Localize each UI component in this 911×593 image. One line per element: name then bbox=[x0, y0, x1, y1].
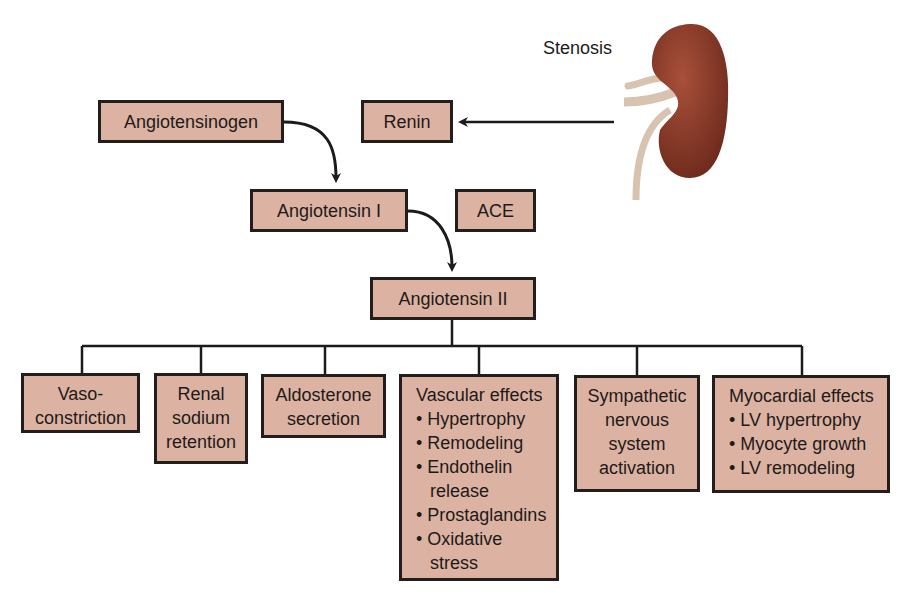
effect-line: activation bbox=[599, 456, 675, 480]
effect-heading: Myocardial effects bbox=[729, 384, 874, 408]
effect-item: • LV hypertrophy bbox=[729, 408, 861, 432]
node-label: Angiotensinogen bbox=[124, 110, 258, 134]
effect-line: constriction bbox=[35, 406, 126, 430]
node-ace: ACE bbox=[455, 189, 536, 232]
effect-line: Renal bbox=[177, 382, 224, 406]
effect-item: • Myocyte growth bbox=[729, 432, 866, 456]
arrow-angiotensin1-to-angiotensin2 bbox=[408, 211, 452, 267]
effect-sympathetic: Sympathetic nervous system activation bbox=[574, 375, 700, 492]
effect-line: system bbox=[608, 432, 665, 456]
effect-heading: Vascular effects bbox=[416, 383, 542, 407]
node-label: ACE bbox=[477, 199, 514, 223]
effect-aldosterone-secretion: Aldosterone secretion bbox=[261, 374, 386, 438]
effect-line: Aldosterone bbox=[275, 383, 371, 407]
effect-line: secretion bbox=[287, 407, 360, 431]
effect-item: • LV remodeling bbox=[729, 456, 855, 480]
effect-item: stress bbox=[416, 551, 478, 575]
effect-item: • Endothelin bbox=[416, 455, 512, 479]
effect-myocardial: Myocardial effects • LV hypertrophy • My… bbox=[712, 375, 890, 493]
effect-item: • Oxidative bbox=[416, 527, 502, 551]
kidney-illustration bbox=[624, 24, 728, 200]
stenosis-label: Stenosis bbox=[543, 38, 612, 59]
node-angiotensin-2: Angiotensin II bbox=[370, 277, 536, 320]
node-label: Renin bbox=[383, 110, 430, 134]
effect-item: • Hypertrophy bbox=[416, 407, 525, 431]
arrow-angiotensinogen-to-angiotensin1 bbox=[284, 122, 336, 178]
effect-item: • Prostaglandins bbox=[416, 503, 546, 527]
effect-line: Vaso- bbox=[58, 382, 104, 406]
node-label: Angiotensin I bbox=[277, 199, 381, 223]
effect-line: sodium bbox=[172, 406, 230, 430]
node-label: Angiotensin II bbox=[398, 287, 507, 311]
effect-vascular: Vascular effects • Hypertrophy • Remodel… bbox=[399, 374, 559, 581]
effect-renal-sodium-retention: Renal sodium retention bbox=[154, 373, 248, 464]
node-angiotensin-1: Angiotensin I bbox=[250, 189, 408, 232]
node-angiotensinogen: Angiotensinogen bbox=[98, 100, 284, 143]
effect-vasoconstriction: Vaso- constriction bbox=[21, 373, 140, 433]
effect-line: Sympathetic bbox=[587, 384, 686, 408]
effect-line: nervous bbox=[605, 408, 669, 432]
effect-line: retention bbox=[166, 430, 236, 454]
node-renin: Renin bbox=[361, 100, 453, 143]
effect-item: • Remodeling bbox=[416, 431, 523, 455]
effect-item: release bbox=[416, 479, 489, 503]
